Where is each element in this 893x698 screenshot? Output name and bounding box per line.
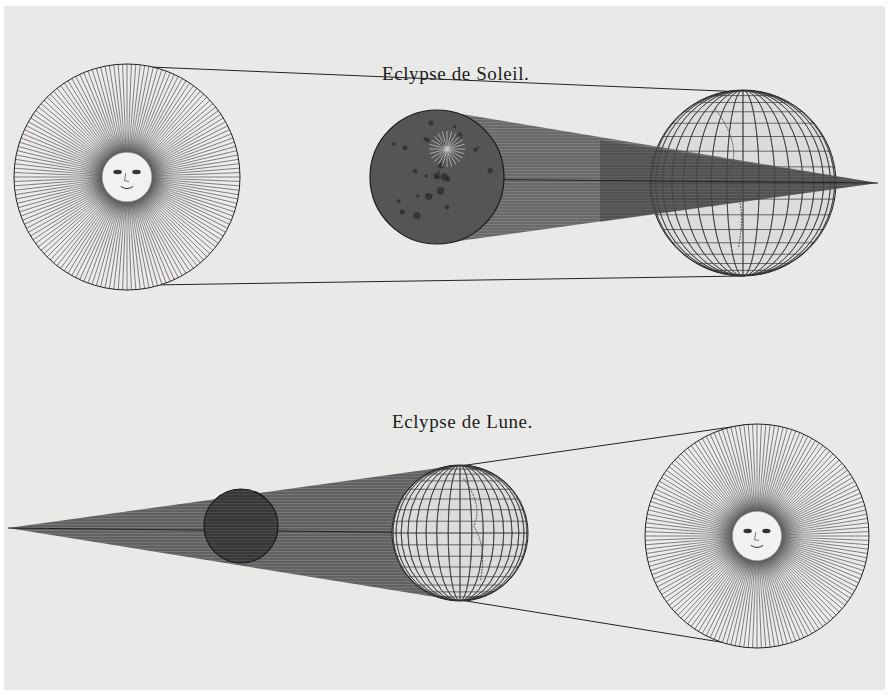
tangent-line-bottom xyxy=(150,276,745,285)
solar-eclipse-title: Eclypse de Soleil. xyxy=(382,63,529,85)
eclipsed-moon-icon xyxy=(204,489,278,563)
solar-eclipse-figure xyxy=(14,64,878,290)
sun-with-face-icon xyxy=(645,424,869,648)
earth-globe-icon xyxy=(392,465,528,601)
lunar-eclipse-figure xyxy=(8,424,869,648)
eclipse-diagram xyxy=(0,0,893,698)
engraving-plate: Eclypse de Soleil. Eclypse de Lune. xyxy=(4,6,885,690)
moon-icon xyxy=(370,110,504,244)
lunar-eclipse-title: Eclypse de Lune. xyxy=(392,411,533,433)
sun-with-face-icon xyxy=(14,64,240,290)
